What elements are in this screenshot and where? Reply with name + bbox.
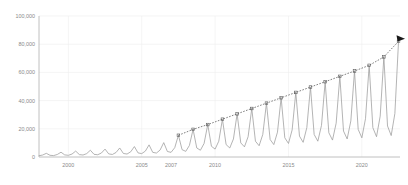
y-axis-tick-label: 60,000 — [19, 69, 36, 75]
chart-container: 020,00040,00060,00080,000100,000 2000200… — [0, 0, 408, 185]
chart-svg: 020,00040,00060,00080,000100,000 2000200… — [0, 0, 408, 185]
x-axis-tick-label: 2015 — [282, 162, 294, 168]
x-axis-tick-label: 2010 — [209, 162, 221, 168]
x-axis-tick-labels: 200020052007201020152020 — [62, 162, 367, 168]
y-axis-tick-label: 20,000 — [19, 126, 36, 132]
seasonal-series-line — [39, 41, 399, 155]
y-axis-tick-labels: 020,00040,00060,00080,000100,000 — [16, 13, 36, 160]
y-axis-tick-label: 80,000 — [19, 41, 36, 47]
y-axis-tick-label: 100,000 — [16, 13, 36, 19]
x-axis-tick-label: 2020 — [356, 162, 368, 168]
y-axis-tick-label: 40,000 — [19, 98, 36, 104]
plot-area: 020,00040,00060,00080,000100,000 2000200… — [0, 0, 408, 185]
y-axis-tick-label: 0 — [32, 154, 35, 160]
x-axis-tick-label: 2000 — [62, 162, 74, 168]
arrow-marker-icon — [397, 35, 406, 41]
x-axis-tick-label: 2005 — [136, 162, 148, 168]
x-axis-tick-label: 2007 — [165, 162, 177, 168]
